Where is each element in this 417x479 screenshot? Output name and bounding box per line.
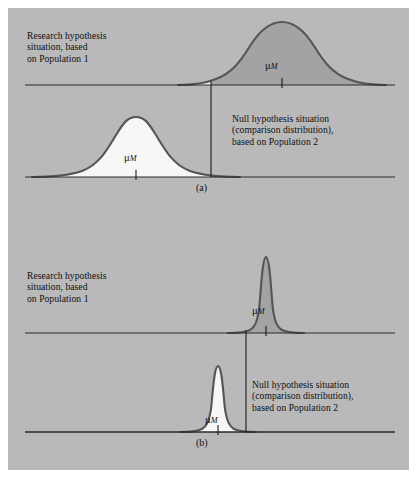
panel-a-research-hypothesis-caption: Research hypothesis situation, based on … xyxy=(27,30,107,64)
panel-a-null-hypothesis-caption: Null hypothesis situation (comparison di… xyxy=(232,113,334,147)
panel-b-null-curve-fill xyxy=(180,366,256,432)
panel-b-research-curve-fill xyxy=(228,257,304,333)
panel-b-research-hypothesis-caption: Research hypothesis situation, based on … xyxy=(27,270,107,304)
distribution-curves-layer xyxy=(0,0,417,479)
panel-b-null-hypothesis-caption: Null hypothesis situation (comparison di… xyxy=(252,379,354,413)
mu-subscript: M xyxy=(271,62,278,71)
panel-a-research-curve-fill xyxy=(178,22,386,85)
panel-a-null-curve-fill xyxy=(32,117,240,177)
panel-b-label: (b) xyxy=(196,437,208,448)
mu-subscript: M xyxy=(211,416,218,425)
panel-a-research-mean-label: μM xyxy=(265,60,277,71)
panel-a-null-mean-label: μM xyxy=(124,152,136,163)
panel-b-null-mean-label: μM xyxy=(205,414,217,425)
panel-a-label: (a) xyxy=(196,182,207,193)
mu-subscript: M xyxy=(258,307,265,316)
statistics-figure: Research hypothesis situation, based on … xyxy=(0,0,417,479)
mu-subscript: M xyxy=(130,154,137,163)
panel-b-research-mean-label: μM xyxy=(252,305,264,316)
